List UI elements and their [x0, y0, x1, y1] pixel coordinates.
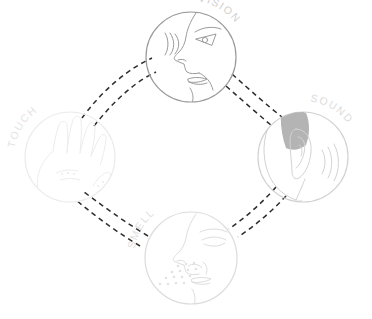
- connector-vision-sound: [226, 74, 282, 126]
- vision-circle[interactable]: [146, 12, 236, 102]
- touch-label: TOUCH: [5, 103, 39, 149]
- smell-label: SMELL: [125, 206, 157, 250]
- five-senses-diagram: VISION: [0, 0, 372, 319]
- touch-label-text: TOUCH: [5, 103, 39, 149]
- node-vision[interactable]: VISION: [146, 0, 244, 103]
- diagram-canvas: VISION: [0, 0, 372, 319]
- connector-touch-vision: [82, 58, 156, 126]
- vision-label: VISION: [198, 0, 244, 25]
- node-sound[interactable]: SOUND: [258, 91, 356, 202]
- vision-label-text: VISION: [198, 0, 244, 25]
- smell-label-text: SMELL: [125, 206, 157, 250]
- node-touch[interactable]: TOUCH: [5, 103, 115, 212]
- connector-group: [76, 58, 286, 246]
- smell-circle[interactable]: [145, 212, 237, 304]
- sound-label: SOUND: [310, 91, 357, 125]
- sound-label-text: SOUND: [310, 91, 357, 125]
- vision-face-illustration: [165, 13, 221, 103]
- smell-face-illustration: [173, 214, 227, 305]
- node-smell[interactable]: SMELL: [125, 206, 237, 305]
- touch-hand-illustration: [37, 116, 110, 211]
